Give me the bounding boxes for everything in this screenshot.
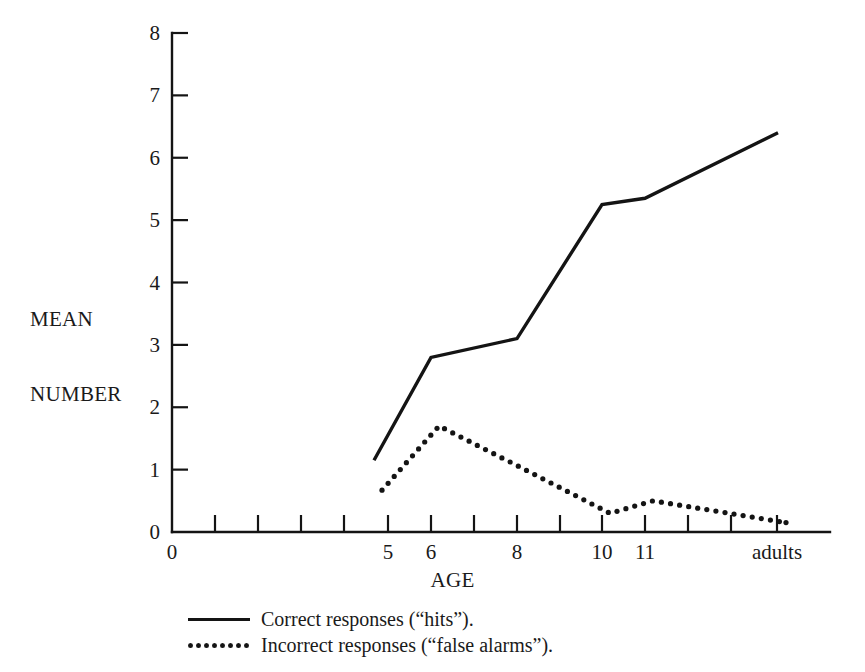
chart-figure: 012345678 05681011adults MEAN NUMBER AGE… [0,0,865,672]
dot-marker [483,447,488,452]
y-tick-label-1: 1 [150,458,161,482]
dot-marker [386,481,391,486]
dot-marker [499,455,504,460]
dot-marker [650,498,655,503]
x-axis-ticks [215,515,777,532]
dot-marker [434,426,439,431]
dot-marker [768,518,773,523]
dot-marker [598,506,603,511]
x-tick-label-5: 5 [383,540,394,564]
dot-marker [632,504,637,509]
legend-dot [220,643,225,648]
dot-marker [548,480,553,485]
dot-marker [516,464,521,469]
dot-marker [581,497,586,502]
x-axis-title: AGE [0,568,865,593]
dot-marker [379,488,384,493]
y-tick-label-0: 0 [150,520,161,544]
y-axis-tick-labels: 012345678 [150,21,161,544]
y-tick-label-7: 7 [150,83,161,107]
y-tick-label-6: 6 [150,146,161,170]
y-tick-label-4: 4 [150,271,161,295]
y-tick-label-5: 5 [150,208,161,232]
dot-marker [475,443,480,448]
legend-label-correct-responses: Correct responses (“hits”). [261,608,474,631]
y-tick-label-2: 2 [150,395,161,419]
dot-marker [392,474,397,479]
dot-marker [759,516,764,521]
dot-marker [450,430,455,435]
y-axis-title-line-2: NUMBER [30,382,122,407]
dot-marker [422,439,427,444]
dotted-line-swatch-icon [186,636,252,654]
dot-marker [410,453,415,458]
dot-marker [467,439,472,444]
dot-marker [565,489,570,494]
legend-dot [212,643,217,648]
dot-marker [557,485,562,490]
y-axis-title-line-1: MEAN [30,307,122,332]
dot-marker [589,501,594,506]
x-tick-label-6: 6 [426,540,437,564]
y-axis-ticks [172,33,188,470]
dot-marker [540,476,545,481]
y-tick-label-3: 3 [150,333,161,357]
dot-marker [398,467,403,472]
x-tick-label-adults: adults [752,540,802,564]
x-tick-label-10: 10 [592,540,613,564]
legend-item-incorrect-responses: Incorrect responses (“false alarms”). [186,632,786,658]
series-incorrect-responses-line [379,426,788,526]
dot-marker [641,501,646,506]
dot-marker [416,446,421,451]
dot-marker [458,435,463,440]
dot-marker [777,519,782,524]
legend-label-incorrect-responses: Incorrect responses (“false alarms”). [261,634,553,657]
legend-dot [228,643,233,648]
dot-marker [741,513,746,518]
dot-marker [668,501,673,506]
dot-marker [686,504,691,509]
dot-marker [623,506,628,511]
dot-marker [508,459,513,464]
y-tick-label-8: 8 [150,21,161,45]
dot-marker [659,500,664,505]
dot-marker [428,433,433,438]
legend-item-correct-responses: Correct responses (“hits”). [186,606,786,632]
x-tick-label-0: 0 [167,540,178,564]
dot-marker [677,503,682,508]
chart-legend: Correct responses (“hits”). Incorrect re… [186,606,786,658]
solid-line-swatch-icon [186,610,252,628]
dot-marker [695,506,700,511]
dot-marker [491,451,496,456]
dot-marker [731,511,736,516]
x-axis-tick-labels: 05681011adults [167,540,802,564]
dot-marker [606,510,611,515]
dot-marker [614,509,619,514]
dot-marker [713,509,718,514]
legend-dot [244,643,249,648]
series-correct-responses-line [374,133,778,461]
dot-marker [750,515,755,520]
dot-marker [783,520,788,525]
dot-marker [532,472,537,477]
x-tick-label-11: 11 [635,540,655,564]
x-tick-label-8: 8 [512,540,523,564]
dot-marker [524,468,529,473]
dot-marker [442,426,447,431]
y-axis-title: MEAN NUMBER [30,257,122,457]
dot-marker [722,510,727,515]
legend-dot [188,643,193,648]
legend-dot [196,643,201,648]
dot-marker [573,493,578,498]
legend-dot [236,643,241,648]
dot-marker [404,460,409,465]
dot-marker [704,507,709,512]
legend-dot [204,643,209,648]
